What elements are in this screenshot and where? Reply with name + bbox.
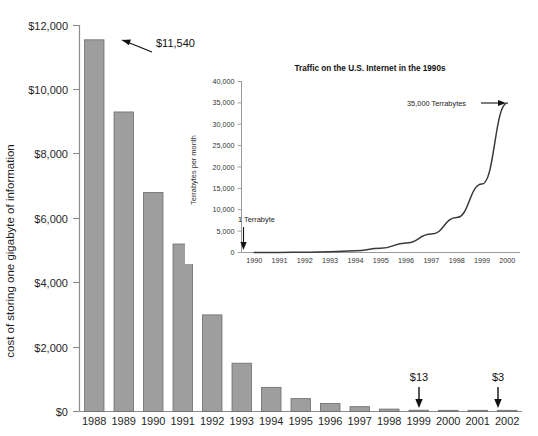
main-y-tick-label: $2,000 (34, 342, 68, 354)
main-x-tick-label-1988: 1988 (82, 415, 106, 427)
main-y-tick-label: $10,000 (28, 84, 68, 96)
bar-1991 (173, 244, 192, 411)
bar-1989 (114, 112, 133, 412)
inset-x-tick-label-1995: 1995 (373, 256, 389, 265)
inset-x-tick-label-1992: 1992 (297, 256, 313, 265)
bar-1992 (203, 315, 222, 412)
bar-2001 (468, 410, 487, 411)
main-x-tick-labels: 1988198919901991199219931994199519961997… (82, 415, 519, 427)
inset-y-tick-label: 25,000 (213, 141, 235, 150)
inset-x-tick-label-2000: 2000 (499, 256, 515, 265)
inset-y-tick-label: 30,000 (213, 120, 235, 129)
inset-y-tick-label: 35,000 (213, 98, 235, 107)
bar-1993 (232, 363, 251, 411)
main-y-tick-label: $6,000 (34, 213, 68, 225)
main-x-tick-label-1996: 1996 (318, 415, 342, 427)
annotation-first-bar-label: $11,540 (156, 37, 195, 49)
main-x-tick-label-1992: 1992 (200, 415, 224, 427)
inset-internet-traffic-line-chart: Traffic on the U.S. Internet in the 1990… (185, 58, 533, 265)
annotation-year-2002: $3 (492, 371, 504, 408)
bar-1995 (291, 399, 310, 412)
main-x-tick-label-1993: 1993 (230, 415, 254, 427)
main-x-tick-label-1991: 1991 (171, 415, 195, 427)
inset-y-tick-label: 10,000 (213, 205, 235, 214)
bar-1997 (350, 407, 369, 412)
inset-x-tick-label-1998: 1998 (449, 256, 465, 265)
inset-x-tick-label-1991: 1991 (271, 256, 287, 265)
bar-1990 (144, 192, 163, 411)
inset-x-tick-label-1990: 1990 (246, 256, 262, 265)
inset-y-tick-label: 15,000 (213, 184, 235, 193)
bar-1998 (380, 409, 399, 411)
inset-x-tick-label-1996: 1996 (398, 256, 414, 265)
inset-y-tick-label: 40,000 (213, 77, 235, 86)
inset-x-tick-label-1994: 1994 (347, 256, 363, 265)
bar-1996 (321, 403, 340, 411)
inset-title: Traffic on the U.S. Internet in the 1990… (294, 64, 445, 73)
main-x-tick-label-1990: 1990 (141, 415, 165, 427)
annotation-year-2000-label: $13 (410, 371, 428, 383)
inset-y-tick-label: 5,000 (217, 227, 235, 236)
figure-container: cost of storing one gigabyte of informat… (0, 0, 538, 436)
main-y-ticks: $12,000 $10,000 $8,000 $6,000 $4,000 $2,… (28, 20, 79, 418)
main-x-tick-label-1989: 1989 (112, 415, 136, 427)
main-x-tick-label-1995: 1995 (289, 415, 313, 427)
bar-1988 (85, 40, 104, 412)
annotation-year-2002-label: $3 (492, 371, 504, 383)
inset-y-tick-label: 0 (231, 248, 235, 257)
bar-2002 (498, 410, 517, 411)
main-y-tick-label: $12,000 (28, 20, 68, 32)
main-x-tick-label-2002: 2002 (495, 415, 519, 427)
inset-x-tick-label-1997: 1997 (423, 256, 439, 265)
main-y-tick-label: $0 (56, 406, 68, 418)
main-y-tick-label: $8,000 (34, 148, 68, 160)
main-x-tick-label-1998: 1998 (377, 415, 401, 427)
annotation-year-2000: $13 (410, 371, 428, 408)
inset-y-tick-label: 20,000 (213, 163, 235, 172)
main-y-tick-label: $4,000 (34, 277, 68, 289)
main-x-tick-label-2001: 2001 (466, 415, 490, 427)
main-x-tick-label-1994: 1994 (259, 415, 283, 427)
annotation-first-bar: $11,540 (122, 37, 195, 52)
cost-of-storage-bar-chart: cost of storing one gigabyte of informat… (0, 0, 538, 436)
inset-x-tick-labels: 1990199119921993199419951996199719981999… (246, 256, 515, 265)
inset-x-tick-label-1993: 1993 (322, 256, 338, 265)
main-y-axis-title: cost of storing one gigabyte of informat… (4, 144, 16, 358)
inset-annotation-start-label: 1 Terrabyte (238, 215, 275, 224)
main-x-tick-label-2000: 2000 (436, 415, 460, 427)
main-x-tick-label-1997: 1997 (348, 415, 372, 427)
inset-y-axis-title: Terrabytes per month (189, 135, 198, 205)
bar-1999 (409, 410, 428, 411)
inset-annotation-end-label: 35,000 Terrabytes (407, 99, 466, 108)
bar-2000 (439, 410, 458, 411)
main-x-tick-label-1999: 1999 (407, 415, 431, 427)
inset-background (185, 58, 533, 264)
bar-1994 (262, 387, 281, 411)
inset-x-tick-label-1999: 1999 (474, 256, 490, 265)
